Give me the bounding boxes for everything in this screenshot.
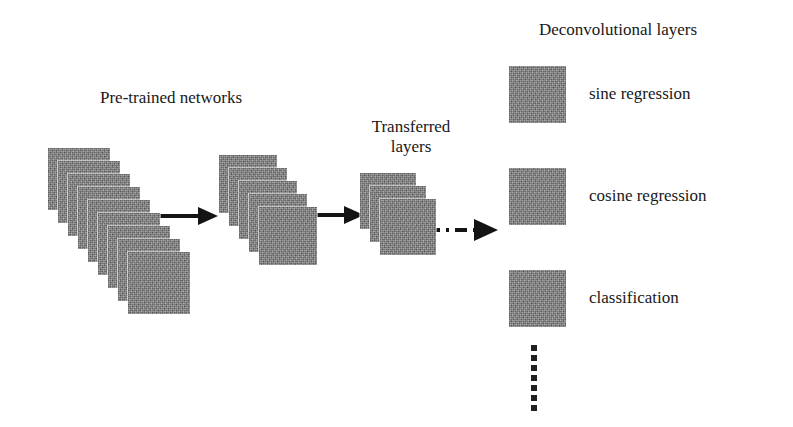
ellipsis-dot: [531, 375, 537, 381]
layer-square: [259, 207, 317, 265]
ellipsis-dot: [531, 385, 537, 391]
ellipsis-dot: [531, 355, 537, 361]
deconv-square-sine-regression: [509, 66, 566, 123]
vertical-ellipsis: [531, 345, 537, 409]
deconv-label-classification: classification: [589, 288, 679, 308]
arrow-transferred-to-deconv: [428, 214, 500, 246]
deconv-square-cosine-regression: [509, 168, 566, 225]
ellipsis-dot: [531, 405, 537, 411]
layer-square: [128, 252, 190, 314]
figure-canvas: Pre-trained networks Transferred layers …: [0, 0, 793, 427]
deconv-label-sine-regression: sine regression: [589, 84, 691, 104]
transferred-layers-title-line1: Transferred: [372, 117, 451, 136]
ellipsis-dot: [531, 395, 537, 401]
ellipsis-dot: [531, 365, 537, 371]
deconv-label-cosine-regression: cosine regression: [589, 186, 707, 206]
deconvolutional-layers-title: Deconvolutional layers: [539, 20, 697, 40]
transferred-layers-title: Transferred layers: [352, 117, 470, 156]
deconv-square-classification: [509, 270, 566, 327]
pretrained-networks-title: Pre-trained networks: [100, 88, 242, 108]
transferred-layers-title-line2: layers: [391, 137, 432, 156]
layer-square: [380, 199, 436, 255]
ellipsis-dot: [531, 345, 537, 351]
